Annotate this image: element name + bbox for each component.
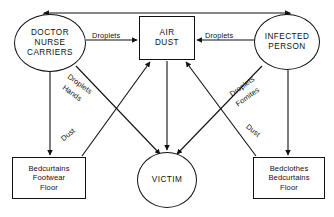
node-victim-line-1: VICTIM <box>152 175 182 185</box>
node-bedright-line-2: Bedcurtains <box>268 173 309 182</box>
edge-label-droplets-left: Droplets <box>92 31 120 40</box>
node-bedcurtains-footwear-floor[interactable]: Bedcurtains Footwear Floor <box>12 157 86 199</box>
node-bedleft-line-2: Footwear <box>33 173 65 182</box>
node-bedclothes-bedcurtains-floor[interactable]: Bedclothes Bedcurtains Floor <box>253 157 325 199</box>
node-bedright-line-1: Bedclothes <box>270 164 309 173</box>
node-infected-line-1: INFECTED <box>265 32 310 42</box>
node-infected-person[interactable]: INFECTED PERSON <box>254 14 320 70</box>
edge-bedright-air <box>186 62 256 156</box>
node-bedleft-line-1: Bedcurtains <box>28 164 69 173</box>
node-bedright-line-3: Floor <box>280 183 298 192</box>
node-doctor-line-1: DOCTOR <box>31 28 69 38</box>
transmission-diagram: DOCTOR NURSE CARRIERS AIR DUST INFECTED … <box>0 0 334 217</box>
node-doctor-line-2: NURSE <box>35 38 66 48</box>
edge-bedleft-air <box>82 62 150 156</box>
node-doctor-line-3: CARRIERS <box>27 48 73 58</box>
edge-doctor-victim <box>76 66 160 154</box>
node-air-line-2: DUST <box>155 38 179 48</box>
edge-label-droplets-right: Droplets <box>205 31 233 40</box>
node-air-line-1: AIR <box>160 28 175 38</box>
node-air-dust[interactable]: AIR DUST <box>139 16 195 60</box>
node-victim[interactable]: VICTIM <box>137 152 197 208</box>
node-bedleft-line-3: Floor <box>40 183 58 192</box>
node-infected-line-2: PERSON <box>268 42 305 52</box>
node-doctor-nurse-carriers[interactable]: DOCTOR NURSE CARRIERS <box>14 14 86 72</box>
